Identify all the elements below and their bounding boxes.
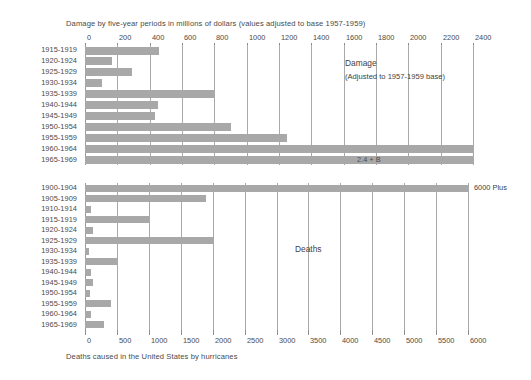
x-tick-mark-6000 bbox=[468, 330, 469, 335]
x-tick-label-1600: 1600 bbox=[344, 33, 362, 42]
bar-1935-1939 bbox=[85, 90, 214, 98]
bar-1905-1909 bbox=[85, 195, 206, 202]
category-label-1920-1924: 1920-1924 bbox=[41, 56, 77, 65]
x-tick-label-5000: 5000 bbox=[404, 336, 422, 345]
x-tick-label-1000: 1000 bbox=[247, 33, 265, 42]
category-label-1935-1939: 1935-1939 bbox=[41, 89, 77, 98]
gridline-500 bbox=[117, 183, 118, 330]
x-tick-mark-1500 bbox=[181, 330, 182, 335]
x-tick-label-4500: 4500 bbox=[372, 336, 390, 345]
bar-1950-1954 bbox=[85, 290, 90, 297]
bar-1950-1954 bbox=[85, 123, 231, 131]
bar-1945-1949 bbox=[85, 112, 155, 120]
bar-1940-1944 bbox=[85, 269, 91, 276]
bar-1965-1969 bbox=[85, 321, 104, 328]
deaths-plot-area bbox=[85, 183, 468, 330]
x-tick-label-2000: 2000 bbox=[213, 336, 231, 345]
bar-1955-1959 bbox=[85, 134, 287, 142]
x-tick-label-400: 400 bbox=[150, 33, 164, 42]
deaths-chart: 1900-19041905-19091910-19141915-19191920… bbox=[0, 183, 531, 348]
category-label-1940-1944: 1940-1944 bbox=[41, 100, 77, 109]
x-tick-label-600: 600 bbox=[182, 33, 196, 42]
x-tick-label-2500: 2500 bbox=[245, 336, 263, 345]
x-tick-label-2200: 2200 bbox=[441, 33, 459, 42]
gridline-3500 bbox=[308, 183, 309, 330]
hurricane-damage-deaths-figure: Damage by five-year periods in millions … bbox=[0, 0, 531, 380]
damage-plot-area bbox=[85, 45, 473, 165]
gridline-2400 bbox=[473, 45, 474, 165]
x-tick-label-500: 500 bbox=[117, 336, 131, 345]
category-label-1955-1959: 1955-1959 bbox=[41, 299, 77, 308]
x-tick-label-800: 800 bbox=[214, 33, 228, 42]
x-tick-label-0: 0 bbox=[85, 336, 91, 345]
category-label-1960-1964: 1960-1964 bbox=[41, 309, 77, 318]
gridline-1000 bbox=[149, 183, 150, 330]
x-tick-label-6000: 6000 bbox=[468, 336, 486, 345]
damage-legend-subtitle: (Adjusted to 1957-1959 base) bbox=[345, 72, 445, 81]
bar-1920-1924 bbox=[85, 227, 93, 234]
x-tick-label-2000: 2000 bbox=[408, 33, 426, 42]
bar-1960-1964 bbox=[85, 145, 473, 153]
category-label-1930-1934: 1930-1934 bbox=[41, 246, 77, 255]
gridline-6000 bbox=[468, 183, 469, 330]
category-label-1945-1949: 1945-1949 bbox=[41, 278, 77, 287]
bar-1920-1924 bbox=[85, 57, 112, 65]
category-label-1965-1969: 1965-1969 bbox=[41, 320, 77, 329]
damage-legend-title: Damage bbox=[345, 58, 377, 68]
x-tick-label-4000: 4000 bbox=[340, 336, 358, 345]
x-tick-label-1400: 1400 bbox=[311, 33, 329, 42]
gridline-3000 bbox=[277, 183, 278, 330]
x-tick-mark-2500 bbox=[245, 330, 246, 335]
category-label-1950-1954: 1950-1954 bbox=[41, 288, 77, 297]
bar-1965-1969 bbox=[85, 156, 473, 164]
bar-1955-1959 bbox=[85, 300, 111, 307]
damage-category-labels: 1915-19191920-19241925-19291930-19341935… bbox=[22, 45, 80, 165]
x-tick-label-5500: 5500 bbox=[436, 336, 454, 345]
bar-annotation-1965-1969: 2.4 + B bbox=[357, 155, 381, 164]
bar-1925-1929 bbox=[85, 237, 213, 244]
x-tick-mark-1000 bbox=[149, 330, 150, 335]
bar-1960-1964 bbox=[85, 311, 91, 318]
bar-1935-1939 bbox=[85, 258, 117, 265]
gridline-1500 bbox=[181, 183, 182, 330]
bar-1930-1934 bbox=[85, 79, 102, 87]
gridline-5500 bbox=[436, 183, 437, 330]
top-chart-caption: Damage by five-year periods in millions … bbox=[66, 19, 365, 28]
damage-chart: 1915-19191920-19241925-19291930-19341935… bbox=[0, 33, 531, 168]
gridline-4000 bbox=[340, 183, 341, 330]
bar-1940-1944 bbox=[85, 101, 158, 109]
gridline-5000 bbox=[404, 183, 405, 330]
x-tick-mark-3000 bbox=[277, 330, 278, 335]
category-label-1915-1919: 1915-1919 bbox=[41, 215, 77, 224]
x-tick-mark-5500 bbox=[436, 330, 437, 335]
bar-1910-1914 bbox=[85, 206, 91, 213]
gridline-2000 bbox=[213, 183, 214, 330]
category-label-1940-1944: 1940-1944 bbox=[41, 267, 77, 276]
x-tick-mark-4500 bbox=[372, 330, 373, 335]
category-label-1930-1934: 1930-1934 bbox=[41, 78, 77, 87]
category-label-1920-1924: 1920-1924 bbox=[41, 225, 77, 234]
bar-1945-1949 bbox=[85, 279, 93, 286]
bar-1915-1919 bbox=[85, 216, 149, 223]
x-tick-label-2400: 2400 bbox=[473, 33, 491, 42]
category-label-1935-1939: 1935-1939 bbox=[41, 257, 77, 266]
x-tick-label-1000: 1000 bbox=[149, 336, 167, 345]
x-tick-label-3500: 3500 bbox=[308, 336, 326, 345]
x-tick-label-200: 200 bbox=[117, 33, 131, 42]
x-tick-mark-500 bbox=[117, 330, 118, 335]
bar-1925-1929 bbox=[85, 68, 132, 76]
x-tick-mark-2000 bbox=[213, 330, 214, 335]
category-label-1900-1904: 1900-1904 bbox=[41, 183, 77, 192]
gridline-4500 bbox=[372, 183, 373, 330]
x-tick-mark-4000 bbox=[340, 330, 341, 335]
x-tick-label-0: 0 bbox=[85, 33, 91, 42]
category-label-1905-1909: 1905-1909 bbox=[41, 194, 77, 203]
gridline-2500 bbox=[245, 183, 246, 330]
deaths-x-axis: 0500100015002000250030003500400045005000… bbox=[0, 330, 531, 346]
x-tick-mark-5000 bbox=[404, 330, 405, 335]
category-label-1960-1964: 1960-1964 bbox=[41, 144, 77, 153]
category-label-1925-1929: 1925-1929 bbox=[41, 236, 77, 245]
bottom-chart-caption: Deaths caused in the United States by hu… bbox=[66, 352, 238, 361]
category-label-1925-1929: 1925-1929 bbox=[41, 67, 77, 76]
category-label-1965-1969: 1965-1969 bbox=[41, 155, 77, 164]
